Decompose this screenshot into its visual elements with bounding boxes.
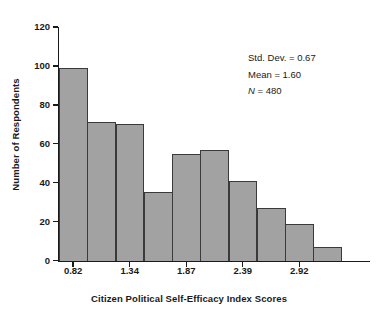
- y-tick-label: 20: [24, 217, 50, 227]
- y-tick-mark: [53, 104, 58, 105]
- y-tick-label: 40: [24, 178, 50, 188]
- annotation-sample-size: N = 480: [248, 83, 360, 100]
- x-tick-label: 2.39: [220, 266, 266, 276]
- y-tick-mark: [53, 65, 58, 66]
- histogram-bar: [59, 68, 88, 261]
- histogram-bar: [229, 181, 258, 261]
- annotation-n-symbol: N: [248, 85, 255, 96]
- histogram-bar: [87, 122, 116, 260]
- x-axis-title: Citizen Political Self-Efficacy Index Sc…: [0, 293, 378, 304]
- histogram-figure: Number of Respondents 020406080100120 0.…: [0, 0, 378, 317]
- y-tick-label: 80: [24, 100, 50, 110]
- histogram-bar: [144, 192, 173, 260]
- x-axis-tick-labels: 0.821.341.872.392.92: [58, 266, 370, 282]
- annotation-mean: Mean = 1.60: [248, 67, 360, 84]
- y-axis-title: Number of Respondents: [7, 0, 23, 268]
- y-axis-tick-labels: 020406080100120: [24, 20, 50, 268]
- x-axis-line: [58, 261, 370, 262]
- y-tick-mark: [53, 221, 58, 222]
- histogram-bar: [313, 247, 342, 261]
- y-tick-label: 120: [24, 22, 50, 32]
- x-tick-label: 1.87: [163, 266, 209, 276]
- y-tick-mark: [53, 26, 58, 27]
- y-tick-label: 100: [24, 61, 50, 71]
- x-axis-title-text: Citizen Political Self-Efficacy Index Sc…: [91, 293, 287, 304]
- annotation-std-dev: Std. Dev. = 0.67: [248, 50, 360, 67]
- histogram-bar: [200, 150, 229, 261]
- annotation-n-value: = 480: [255, 85, 282, 96]
- histogram-bar: [257, 208, 286, 261]
- statistics-annotation-block: Std. Dev. = 0.67 Mean = 1.60 N = 480: [248, 50, 360, 100]
- x-tick-label: 0.82: [50, 266, 96, 276]
- histogram-bar: [116, 124, 145, 260]
- x-tick-label: 2.92: [276, 266, 322, 276]
- histogram-bar: [172, 154, 201, 261]
- histogram-bar: [285, 224, 314, 261]
- y-tick-label: 0: [24, 256, 50, 266]
- y-axis-title-text: Number of Respondents: [10, 78, 21, 190]
- y-tick-label: 60: [24, 139, 50, 149]
- x-tick-label: 1.34: [107, 266, 153, 276]
- y-tick-mark: [53, 260, 58, 261]
- y-tick-mark: [53, 143, 58, 144]
- y-tick-mark: [53, 182, 58, 183]
